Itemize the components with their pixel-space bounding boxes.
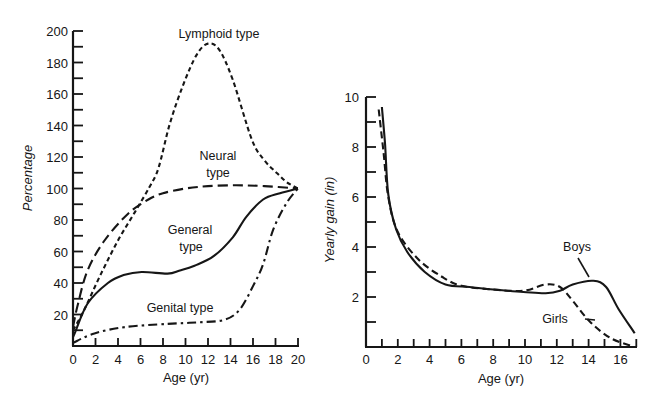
- y-tick-label: 6: [352, 190, 359, 205]
- right-axis-ticks: 2468100246810121416: [345, 90, 637, 367]
- growth-curves-figure: 2040608010012014016018020002468101214161…: [0, 0, 652, 406]
- x-tick-label: 20: [291, 352, 305, 367]
- right-y-axis-title: Yearly gain (in): [322, 177, 337, 264]
- girls-leader-dash: [585, 319, 595, 320]
- x-tick-label: 16: [246, 352, 260, 367]
- y-tick-label: 60: [54, 245, 68, 260]
- x-tick-label: 18: [268, 352, 282, 367]
- height-velocity-chart: 2468100246810121416 Yearly gain (in) Age…: [322, 90, 637, 386]
- general-type-label-line2: type: [179, 240, 203, 254]
- x-tick-label: 4: [426, 352, 433, 367]
- height-velocity-curves: [379, 107, 635, 347]
- genital-type-curve: [73, 189, 298, 343]
- y-tick-label: 120: [46, 150, 68, 165]
- x-tick-label: 16: [613, 352, 627, 367]
- neural-type-label-line2: type: [206, 166, 230, 180]
- boys-curve: [382, 107, 635, 333]
- y-tick-label: 4: [352, 240, 359, 255]
- boys-leader-line: [578, 258, 589, 277]
- x-tick-label: 4: [114, 352, 121, 367]
- x-tick-label: 10: [178, 352, 192, 367]
- left-axis-ticks: 2040608010012014016018020002468101214161…: [46, 24, 305, 367]
- x-tick-label: 6: [137, 352, 144, 367]
- x-tick-label: 10: [518, 352, 532, 367]
- x-tick-label: 12: [201, 352, 215, 367]
- right-x-axis-title: Age (yr): [478, 371, 524, 386]
- y-tick-label: 160: [46, 87, 68, 102]
- y-tick-label: 8: [352, 140, 359, 155]
- y-tick-label: 200: [46, 24, 68, 39]
- x-tick-label: 14: [223, 352, 237, 367]
- x-tick-label: 12: [550, 352, 564, 367]
- y-tick-label: 180: [46, 56, 68, 71]
- x-tick-label: 2: [92, 352, 99, 367]
- boys-label: Boys: [563, 240, 591, 254]
- y-tick-label: 2: [352, 290, 359, 305]
- y-tick-label: 40: [54, 276, 68, 291]
- y-tick-label: 140: [46, 119, 68, 134]
- general-type-label-line1: General: [168, 223, 212, 237]
- y-tick-label: 20: [54, 308, 68, 323]
- neural-type-label-line1: Neural: [200, 149, 237, 163]
- x-tick-label: 14: [581, 352, 595, 367]
- x-tick-label: 6: [458, 352, 465, 367]
- x-tick-label: 8: [490, 352, 497, 367]
- y-tick-label: 80: [54, 213, 68, 228]
- x-tick-label: 0: [69, 352, 76, 367]
- y-tick-label: 100: [46, 182, 68, 197]
- x-tick-label: 2: [394, 352, 401, 367]
- x-tick-label: 0: [362, 352, 369, 367]
- left-x-axis-title: Age (yr): [163, 370, 209, 385]
- x-tick-label: 8: [159, 352, 166, 367]
- lymphoid-type-label: Lymphoid type: [179, 27, 260, 41]
- girls-label: Girls: [542, 312, 568, 326]
- left-y-axis-title: Percentage: [20, 145, 35, 212]
- y-tick-label: 10: [345, 90, 359, 105]
- organ-growth-chart: 2040608010012014016018020002468101214161…: [20, 24, 305, 385]
- genital-type-label: Genital type: [147, 301, 214, 315]
- girls-curve: [379, 110, 633, 347]
- organ-growth-curves: [73, 43, 298, 343]
